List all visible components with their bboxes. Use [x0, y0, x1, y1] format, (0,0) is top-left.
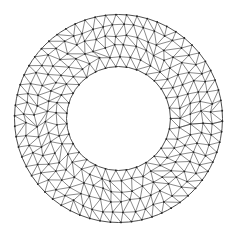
mesh-node — [52, 198, 54, 200]
mesh-node — [44, 191, 46, 193]
mesh-node — [83, 182, 85, 184]
mesh-node — [92, 185, 94, 187]
mesh-node — [61, 94, 63, 96]
mesh-node — [55, 170, 57, 172]
mesh-node — [27, 93, 29, 95]
mesh-node — [182, 84, 184, 86]
mesh-node — [81, 168, 83, 170]
mesh-node — [18, 146, 20, 148]
mesh-node — [145, 49, 147, 51]
mesh-node — [121, 180, 123, 182]
mesh-node — [218, 89, 220, 91]
mesh-node — [56, 34, 58, 36]
mesh-node — [179, 127, 181, 129]
mesh-node — [152, 204, 154, 206]
mesh-node — [102, 26, 104, 28]
mesh-node — [60, 204, 62, 206]
mesh-node — [73, 176, 75, 178]
mesh-node — [99, 57, 101, 59]
mesh-node — [119, 56, 121, 58]
mesh-node — [167, 78, 169, 80]
mesh-node — [100, 198, 102, 200]
mesh-node — [153, 55, 155, 57]
mesh-node — [177, 96, 179, 98]
mesh-node — [58, 162, 60, 164]
mesh-node — [102, 211, 104, 213]
mesh-node — [136, 69, 138, 71]
mesh-node — [115, 36, 117, 38]
mesh-node — [195, 172, 197, 174]
mesh-node — [155, 44, 157, 46]
mesh-node — [67, 53, 69, 55]
mesh-node — [14, 104, 16, 106]
mesh-node — [74, 23, 76, 25]
mesh-node — [34, 56, 36, 58]
mesh-node — [170, 170, 172, 172]
mesh-node — [212, 161, 214, 163]
mesh-node — [211, 103, 213, 105]
mesh-node — [102, 187, 104, 189]
mesh-node — [64, 195, 66, 197]
mesh-node — [189, 161, 191, 163]
mesh-node — [73, 199, 75, 201]
mesh-node — [76, 44, 78, 46]
mesh-node — [115, 66, 117, 68]
background — [0, 0, 236, 237]
mesh-node — [47, 110, 49, 112]
mesh-node — [163, 59, 165, 61]
mesh-node — [161, 212, 163, 214]
mesh-node — [175, 176, 177, 178]
mesh-node — [95, 39, 97, 41]
mesh-node — [142, 176, 144, 178]
mesh-node — [55, 112, 57, 114]
mesh-node — [37, 94, 39, 96]
mesh-node — [145, 73, 147, 75]
mesh-node — [221, 131, 223, 133]
mesh-node — [122, 44, 124, 46]
mesh-node — [181, 186, 183, 188]
mesh-node — [125, 66, 127, 68]
mesh-node — [163, 201, 165, 203]
mesh-node — [42, 155, 44, 157]
mesh-node — [139, 197, 141, 199]
mesh-node — [78, 84, 80, 86]
mesh-node — [30, 83, 32, 85]
mesh-node — [68, 102, 70, 104]
mesh-node — [75, 58, 77, 60]
mesh-node — [28, 65, 30, 67]
mesh-node — [60, 74, 62, 76]
mesh-node — [32, 152, 34, 154]
mesh-node — [126, 14, 128, 16]
mesh-node — [207, 170, 209, 172]
mesh-node — [211, 123, 213, 125]
mesh-node — [82, 205, 84, 207]
mesh-node — [55, 189, 57, 191]
mesh-node — [86, 76, 88, 78]
mesh-node — [23, 74, 25, 76]
mesh-node — [199, 164, 201, 166]
mesh-node — [153, 30, 155, 32]
mesh-node — [168, 183, 170, 185]
mesh-node — [59, 59, 61, 61]
mesh-node — [61, 179, 63, 181]
mesh-node — [114, 44, 116, 46]
mesh-node — [202, 122, 204, 124]
mesh-node — [41, 65, 43, 67]
mesh-node — [195, 187, 197, 189]
mesh-node — [135, 211, 137, 213]
mesh-node — [78, 151, 80, 153]
mesh-node — [186, 181, 188, 183]
mesh-node — [48, 163, 50, 165]
mesh-node — [171, 195, 173, 197]
mesh-node — [72, 92, 74, 94]
mesh-node — [89, 63, 91, 65]
mesh-node — [69, 186, 71, 188]
mesh-node — [120, 222, 122, 224]
mesh-node — [165, 97, 167, 99]
mesh-node — [187, 93, 189, 95]
mesh-node — [129, 199, 131, 201]
mesh-node — [66, 112, 68, 114]
mesh-node — [210, 134, 212, 136]
mesh-node — [25, 166, 27, 168]
mesh-node — [175, 161, 177, 163]
